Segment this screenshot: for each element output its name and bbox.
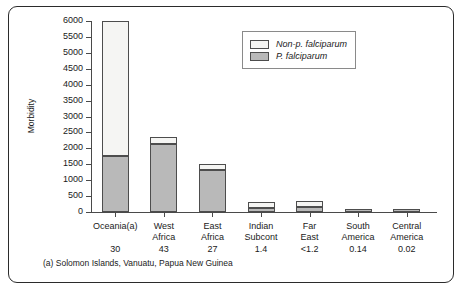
chart-plot-area: 0500100015002000250030003500400045005000… <box>9 7 455 284</box>
y-axis-line <box>91 21 92 213</box>
y-tick-mark <box>86 212 91 213</box>
bar-stack[interactable] <box>102 21 129 212</box>
y-tick-label: 5500 <box>41 31 83 41</box>
bar-segment-pf[interactable] <box>102 156 129 212</box>
legend-item-non-pf: Non-p. falciparum <box>250 39 347 49</box>
y-tick-label: 2500 <box>41 126 83 136</box>
y-tick-label: 6000 <box>41 15 83 25</box>
chart-figure-frame: 0500100015002000250030003500400045005000… <box>8 6 454 283</box>
legend-item-pf: P. falciparum <box>250 51 347 61</box>
y-tick-mark <box>86 196 91 197</box>
y-tick-label: 1000 <box>41 174 83 184</box>
bar-stack[interactable] <box>248 202 275 212</box>
bar-segment-non-pf[interactable] <box>150 137 177 144</box>
legend-label-pf: P. falciparum <box>276 51 327 61</box>
bar-stack[interactable] <box>345 209 372 212</box>
y-tick-label: 2000 <box>41 142 83 152</box>
non-pf-swatch-icon <box>250 40 269 49</box>
chart-footnote: (a) Solomon Islands, Vanuatu, Papua New … <box>43 258 233 268</box>
bar-stack[interactable] <box>199 164 226 212</box>
legend-label-non-pf: Non-p. falciparum <box>276 39 347 49</box>
y-tick-mark <box>86 37 91 38</box>
y-tick-mark <box>86 180 91 181</box>
x-tick-mark <box>310 213 311 217</box>
y-tick-label: 500 <box>41 190 83 200</box>
y-tick-mark <box>86 164 91 165</box>
y-tick-mark <box>86 53 91 54</box>
y-axis-title: Morbidity <box>26 86 36 146</box>
x-category-value: 0.02 <box>376 244 437 254</box>
bar-segment-pf[interactable] <box>393 209 420 212</box>
y-tick-label: 1500 <box>41 158 83 168</box>
bar-stack[interactable] <box>393 210 420 212</box>
x-tick-mark <box>212 213 213 217</box>
y-tick-mark <box>86 117 91 118</box>
x-category-label: Central America <box>376 221 437 243</box>
bar-segment-pf[interactable] <box>248 208 275 212</box>
y-tick-label: 4000 <box>41 79 83 89</box>
y-tick-mark <box>86 148 91 149</box>
y-tick-mark <box>86 85 91 86</box>
x-tick-mark <box>164 213 165 217</box>
x-tick-mark <box>115 213 116 217</box>
bar-segment-pf[interactable] <box>199 170 226 212</box>
bar-segment-pf[interactable] <box>345 209 372 212</box>
x-tick-mark <box>407 213 408 217</box>
y-tick-label: 4500 <box>41 63 83 73</box>
y-tick-label: 3500 <box>41 95 83 105</box>
y-tick-mark <box>86 69 91 70</box>
chart-legend: Non-p. falciparum P. falciparum <box>242 31 356 69</box>
bar-segment-pf[interactable] <box>296 207 323 212</box>
x-axis-line <box>91 212 437 213</box>
y-tick-mark <box>86 101 91 102</box>
x-tick-mark <box>358 213 359 217</box>
bar-segment-non-pf[interactable] <box>102 21 129 156</box>
pf-swatch-icon <box>250 52 269 61</box>
y-tick-label: 3000 <box>41 111 83 121</box>
y-tick-label: 5000 <box>41 47 83 57</box>
bar-stack[interactable] <box>296 201 323 212</box>
bar-stack[interactable] <box>150 137 177 212</box>
bar-segment-pf[interactable] <box>150 144 177 212</box>
y-tick-mark <box>86 21 91 22</box>
x-tick-mark <box>261 213 262 217</box>
y-tick-mark <box>86 132 91 133</box>
y-tick-label: 0 <box>41 206 83 216</box>
